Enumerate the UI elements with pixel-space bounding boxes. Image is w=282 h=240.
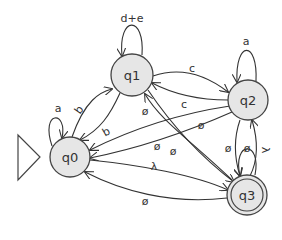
label-loop-q3: λ bbox=[259, 147, 272, 154]
label-q2-q0: c bbox=[181, 98, 187, 111]
label-q1-q3: ø bbox=[198, 119, 205, 132]
edge-q1-q3 bbox=[148, 90, 234, 182]
edge-q2-q1 bbox=[152, 83, 228, 100]
edge-q1-q0 bbox=[80, 93, 120, 140]
loop-q2 bbox=[237, 50, 256, 82]
label-q1-q0: b bbox=[100, 125, 113, 140]
state-q2[interactable]: q2 bbox=[228, 80, 268, 120]
automaton-diagram: q0 q1 q2 q3 a d+e a λ b b c c ø ø ø ø λ … bbox=[0, 0, 282, 240]
label-q2-q3: ø bbox=[244, 142, 251, 155]
edge-q3-q2 bbox=[250, 120, 256, 176]
state-label-q3: q3 bbox=[239, 188, 256, 203]
label-loop-q1: d+e bbox=[121, 12, 144, 25]
state-label-q0: q0 bbox=[62, 150, 79, 165]
label-q0-q3: λ bbox=[151, 160, 158, 173]
state-q0[interactable]: q0 bbox=[50, 137, 90, 177]
label-q0-q1: b bbox=[72, 103, 87, 116]
edge-q3-q0 bbox=[85, 172, 227, 200]
state-label-q2: q2 bbox=[240, 93, 257, 108]
label-q3-q2: ø bbox=[225, 142, 232, 155]
label-q2-q0-empty: ø bbox=[154, 140, 161, 153]
label-loop-q0: a bbox=[55, 102, 62, 115]
edge-q3-q1 bbox=[145, 94, 232, 180]
state-q3-final[interactable]: q3 bbox=[227, 175, 267, 215]
label-loop-q2: a bbox=[243, 35, 250, 48]
label-q2-q3-cross: ø bbox=[170, 145, 177, 158]
edge-q0-q3 bbox=[90, 160, 228, 190]
label-q3-q1: ø bbox=[142, 105, 149, 118]
initial-state-marker bbox=[18, 135, 40, 180]
edge-q2-q3 bbox=[235, 120, 240, 176]
loop-q1 bbox=[122, 25, 143, 56]
state-label-q1: q1 bbox=[124, 68, 141, 83]
state-q1[interactable]: q1 bbox=[111, 54, 153, 96]
label-q3-q0: ø bbox=[142, 195, 149, 208]
label-q1-q2: c bbox=[189, 62, 195, 75]
